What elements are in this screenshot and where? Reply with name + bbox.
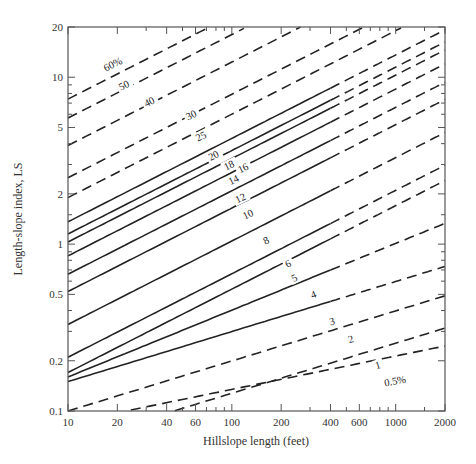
slope-curve-dashed xyxy=(331,42,446,100)
x-tick-label: 1000 xyxy=(385,416,408,428)
slope-curve-dashed xyxy=(68,29,206,99)
slope-curve-solid xyxy=(68,224,331,358)
x-tick-label: 600 xyxy=(351,416,368,428)
x-tick-label: 2000 xyxy=(434,416,457,428)
y-axis-title: Length-slope index, LS xyxy=(11,163,25,276)
slope-curve-label: 0.5% xyxy=(383,374,407,389)
length-slope-chart: 60%5040302520181614121086543210.5% 10204… xyxy=(0,0,476,464)
slope-curve-dashed xyxy=(68,27,301,145)
x-tick-label: 400 xyxy=(322,416,339,428)
slope-curve-solid xyxy=(68,108,331,242)
slope-curve-dashed xyxy=(331,100,446,158)
slope-curve-dashed xyxy=(331,165,446,223)
slope-curve-dashed xyxy=(331,64,446,122)
slope-curve-solid xyxy=(68,270,331,377)
y-tick-label: 0.1 xyxy=(49,405,63,417)
x-tick-label: 60 xyxy=(190,416,202,428)
y-tick-label: 20 xyxy=(52,21,64,33)
slope-curve-solid xyxy=(68,100,331,234)
y-tick-label: 5 xyxy=(58,121,64,133)
slope-curve-solid xyxy=(68,301,331,381)
slope-curve-solid xyxy=(68,88,331,222)
y-tick-label: 1 xyxy=(58,238,64,250)
slope-curve-dashed xyxy=(68,28,401,198)
slope-curve-dashed xyxy=(175,328,445,411)
x-axis-title: Hillslope length (feet) xyxy=(203,434,309,448)
x-tick-label: 10 xyxy=(63,416,75,428)
slope-curve-solid xyxy=(68,141,331,275)
x-tick-label: 20 xyxy=(112,416,124,428)
y-tick-label: 2 xyxy=(58,188,64,200)
x-tick-label: 100 xyxy=(224,416,241,428)
y-tick-label: 10 xyxy=(52,71,64,83)
x-tick-label: 200 xyxy=(273,416,290,428)
y-tick-label: 0.5 xyxy=(49,288,63,300)
x-tick-label: 40 xyxy=(161,416,173,428)
slope-curve-solid xyxy=(68,158,331,292)
y-tick-label: 0.2 xyxy=(49,355,63,367)
slope-curve-dashed xyxy=(331,133,446,191)
slope-curve-dashed xyxy=(331,266,446,301)
